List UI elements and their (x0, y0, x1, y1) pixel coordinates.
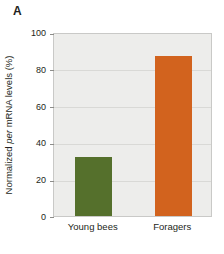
y-axis-tickmark (50, 181, 54, 182)
y-axis-tickmark (50, 34, 54, 35)
bar-foragers (155, 56, 192, 216)
y-axis-title: Normalized per mRNA levels (%) (0, 33, 18, 217)
y-axis-tickmark (50, 217, 54, 218)
y-axis-tickmark (50, 107, 54, 108)
y-axis-tickmark (50, 70, 54, 71)
bar-young-bees (75, 157, 112, 216)
x-axis-tick-label: Foragers (153, 221, 191, 232)
y-axis-tick-label: 40 (36, 138, 46, 148)
x-axis-tick-label: Young bees (68, 221, 118, 232)
plot-area (53, 33, 212, 217)
y-axis-tick-label: 100 (31, 28, 46, 38)
y-axis-title-text: Normalized per mRNA levels (%) (4, 56, 14, 195)
figure-panel: A Normalized per mRNA levels (%) 0204060… (0, 0, 224, 254)
y-axis-tick-label: 80 (36, 65, 46, 75)
y-axis-tickmark (50, 144, 54, 145)
y-axis-title-gene: per (3, 130, 14, 144)
y-axis-tick-label: 20 (36, 175, 46, 185)
y-axis-tick-labels: 020406080100 (18, 33, 50, 217)
y-axis-title-prefix: Normalized (3, 144, 14, 195)
x-axis-tick-labels: Young beesForagers (53, 221, 212, 241)
y-axis-title-suffix: mRNA levels (%) (3, 56, 14, 130)
y-axis-tick-label: 60 (36, 102, 46, 112)
y-axis-tick-label: 0 (41, 212, 46, 222)
panel-label: A (13, 4, 22, 18)
